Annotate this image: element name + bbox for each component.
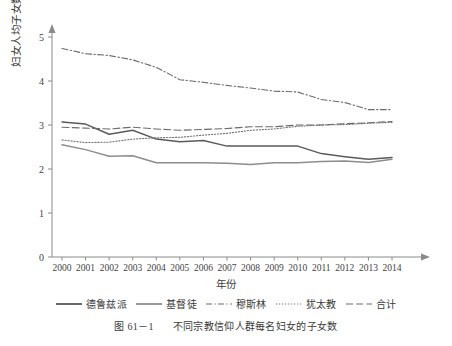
- svg-text:4: 4: [39, 76, 44, 87]
- legend-swatch-solid-icon: [56, 299, 82, 309]
- svg-text:2012: 2012: [335, 263, 354, 273]
- svg-text:0: 0: [39, 252, 44, 263]
- y-axis-title: 妇女人均子女数: [8, 0, 23, 90]
- legend-item-4[interactable]: 合计: [346, 296, 397, 311]
- legend-label-0: 德鲁兹派: [86, 296, 127, 311]
- svg-text:2008: 2008: [241, 263, 260, 273]
- svg-text:2005: 2005: [170, 263, 189, 273]
- svg-text:2011: 2011: [312, 263, 331, 273]
- svg-text:5: 5: [39, 32, 44, 43]
- svg-text:2014: 2014: [383, 263, 402, 273]
- svg-text:2007: 2007: [218, 263, 237, 273]
- svg-text:2001: 2001: [76, 263, 95, 273]
- figure-container: 0123452000200120022003200420052006200720…: [0, 0, 452, 346]
- x-axis-title: 年份: [0, 276, 452, 291]
- legend-swatch-dashed-icon: [346, 299, 372, 309]
- svg-text:3: 3: [39, 120, 44, 131]
- legend-swatch-solid-icon: [136, 299, 162, 309]
- legend-label-3: 犹太教: [306, 296, 337, 311]
- caption-text: 不同宗教信仰人群每名妇女的子女数: [173, 321, 338, 332]
- legend-label-4: 合计: [376, 296, 397, 311]
- legend-item-1[interactable]: 基督徒: [136, 296, 197, 311]
- chart-legend: 德鲁兹派基督徒穆斯林犹太教合计: [0, 296, 452, 311]
- chart-series: [62, 48, 392, 164]
- legend-item-2[interactable]: 穆斯林: [206, 296, 267, 311]
- series-line-3: [62, 122, 392, 142]
- svg-text:2013: 2013: [359, 263, 378, 273]
- svg-text:2009: 2009: [265, 263, 284, 273]
- svg-text:2: 2: [39, 164, 44, 175]
- svg-text:2003: 2003: [123, 263, 142, 273]
- caption-number: 图 61－1: [114, 321, 153, 332]
- series-line-4: [62, 121, 392, 130]
- legend-label-1: 基督徒: [166, 296, 197, 311]
- series-line-1: [62, 145, 392, 165]
- svg-text:1: 1: [39, 208, 44, 219]
- svg-text:2006: 2006: [194, 263, 213, 273]
- svg-text:2000: 2000: [53, 263, 72, 273]
- svg-text:2004: 2004: [147, 263, 166, 273]
- series-line-2: [62, 48, 392, 109]
- legend-swatch-dotted-icon: [276, 299, 302, 309]
- legend-item-0[interactable]: 德鲁兹派: [56, 296, 127, 311]
- legend-item-3[interactable]: 犹太教: [276, 296, 337, 311]
- legend-label-2: 穆斯林: [236, 296, 267, 311]
- svg-text:2010: 2010: [288, 263, 307, 273]
- legend-swatch-dashdot-icon: [206, 299, 232, 309]
- line-chart-plot: 0123452000200120022003200420052006200720…: [0, 0, 452, 290]
- svg-text:2002: 2002: [100, 263, 119, 273]
- figure-caption: 图 61－1 不同宗教信仰人群每名妇女的子女数: [0, 318, 452, 333]
- series-line-0: [62, 122, 392, 159]
